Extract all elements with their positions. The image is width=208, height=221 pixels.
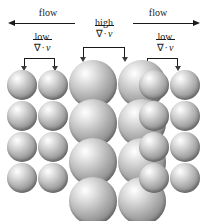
sphere: [69, 177, 117, 221]
sphere: [170, 101, 200, 131]
right-divergence-annotation: low ∇·v: [140, 32, 190, 54]
sphere: [7, 163, 37, 193]
sphere: [38, 132, 68, 162]
flow-label-right: flow: [132, 8, 184, 18]
sphere: [170, 70, 200, 100]
nabla-symbol: ∇: [34, 42, 41, 54]
right-divergence-expression: ∇·v: [140, 42, 190, 54]
center-magnitude-label: high: [76, 17, 132, 28]
center-bracket: [83, 47, 125, 57]
sphere: [139, 70, 169, 100]
flow-label-left: flow: [22, 8, 74, 18]
center-divergence-expression: ∇·v: [76, 28, 132, 40]
sphere: [170, 163, 200, 193]
right-magnitude-label: low: [140, 32, 190, 42]
left-bracket: [24, 58, 55, 66]
sphere: [38, 101, 68, 131]
flow-arrow-line-right: [133, 23, 194, 24]
velocity-vector: v: [169, 42, 173, 54]
divergence-flow-sphere-diagram: flow flow high ∇·v low ∇·v low ∇·v: [0, 0, 208, 221]
flow-arrow-line-left: [14, 23, 75, 24]
left-divergence-annotation: low ∇·v: [17, 32, 67, 54]
sphere: [7, 70, 37, 100]
sphere: [38, 70, 68, 100]
sphere: [170, 132, 200, 162]
sphere: [139, 163, 169, 193]
velocity-vector: v: [46, 42, 50, 54]
sphere: [7, 101, 37, 131]
center-divergence-annotation: high ∇·v: [76, 17, 132, 40]
sphere: [7, 132, 37, 162]
center-pointer-right: [122, 57, 128, 62]
velocity-vector: v: [108, 28, 112, 40]
nabla-symbol: ∇: [96, 28, 103, 40]
left-divergence-expression: ∇·v: [17, 42, 67, 54]
sphere: [139, 132, 169, 162]
flow-arrowhead-right: [193, 20, 200, 26]
nabla-symbol: ∇: [157, 42, 164, 54]
sphere: [139, 101, 169, 131]
left-magnitude-label: low: [17, 32, 67, 42]
sphere: [38, 163, 68, 193]
